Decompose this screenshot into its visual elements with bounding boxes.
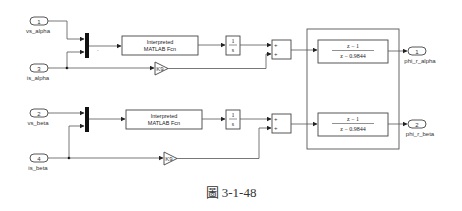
- wire: [48, 52, 84, 68]
- signal-label: .: [97, 46, 99, 52]
- gain-label: K9: [165, 156, 173, 162]
- sum-sign: +: [274, 51, 278, 57]
- figure-caption: 圖 3-1-48: [206, 185, 257, 200]
- integrator-beta[interactable]: 1 s: [226, 110, 240, 129]
- fcn-label-line2: MATLAB Fcn: [144, 46, 176, 52]
- fcn-label-line2: MATLAB Fcn: [148, 120, 180, 126]
- discrete-transfer-fcn-alpha[interactable]: z − 1 z − 0.9844: [318, 40, 388, 63]
- inport-label: is_alpha: [27, 75, 50, 81]
- gain-label: K9: [156, 66, 164, 72]
- sum-beta[interactable]: + +: [272, 114, 291, 133]
- wire: [177, 128, 271, 159]
- inport-vs-alpha[interactable]: 1 vs_alpha: [26, 17, 51, 34]
- sum-sign: +: [274, 42, 278, 48]
- integrator-num: 1: [232, 38, 235, 44]
- inport-label: vs_beta: [27, 120, 49, 126]
- tf-denominator: z − 0.9844: [340, 53, 366, 59]
- tf-numerator: z − 1: [347, 43, 359, 49]
- mux-beta[interactable]: [85, 107, 89, 132]
- outport-phi-r-beta[interactable]: 2 phi_r_beta: [406, 120, 435, 137]
- wire: [48, 21, 84, 39]
- wire: [48, 126, 84, 158]
- gain-k9-alpha[interactable]: K9: [155, 62, 168, 75]
- outport-phi-r-alpha[interactable]: 1 phi_r_alpha: [404, 47, 436, 64]
- inport-label: vs_alpha: [26, 28, 51, 34]
- wire: [168, 54, 271, 69]
- tf-numerator: z − 1: [347, 116, 359, 122]
- simulink-diagram: 1 vs_alpha 3 is_alpha . Interpreted MATL…: [0, 0, 462, 211]
- mux-alpha[interactable]: [85, 33, 89, 58]
- gain-k9-beta[interactable]: K9: [164, 152, 177, 165]
- sum-alpha[interactable]: + +: [272, 40, 291, 59]
- interpreted-matlab-fcn-alpha[interactable]: Interpreted MATLAB Fcn: [122, 36, 198, 55]
- inport-label: is_beta: [28, 165, 48, 171]
- integrator-num: 1: [232, 112, 235, 118]
- discrete-transfer-fcn-beta[interactable]: z − 1 z − 0.9844: [318, 113, 388, 136]
- fcn-label-line1: Interpreted: [151, 113, 178, 119]
- outport-label: phi_r_beta: [406, 131, 435, 137]
- sum-sign: +: [274, 116, 278, 122]
- integrator-alpha[interactable]: 1 s: [226, 36, 240, 55]
- sum-sign: +: [274, 125, 278, 131]
- inport-vs-beta[interactable]: 2 vs_beta: [27, 109, 49, 126]
- inport-is-beta[interactable]: 4 is_beta: [28, 154, 48, 171]
- outport-label: phi_r_alpha: [404, 58, 436, 64]
- interpreted-matlab-fcn-beta[interactable]: Interpreted MATLAB Fcn: [126, 110, 202, 129]
- inport-is-alpha[interactable]: 3 is_alpha: [27, 64, 50, 81]
- tf-denominator: z − 0.9844: [340, 126, 366, 132]
- fcn-label-line1: Interpreted: [147, 39, 174, 45]
